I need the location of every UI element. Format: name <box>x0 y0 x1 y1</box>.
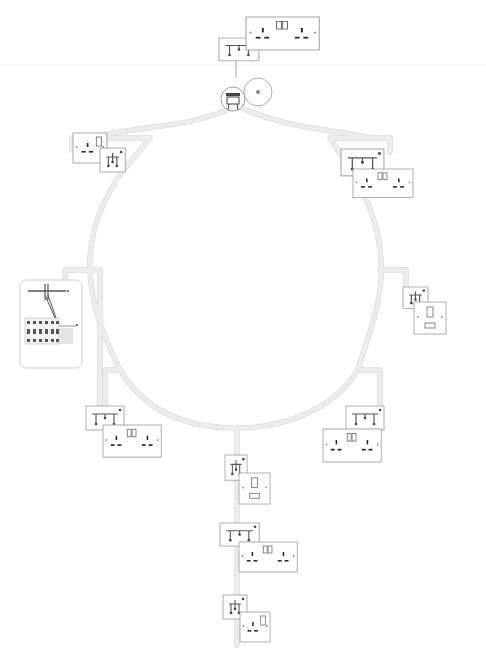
outlet-lower-left-double <box>86 406 161 457</box>
outlet-lower-right-double <box>323 406 384 462</box>
outlet-upper-right-double <box>341 149 413 198</box>
outlet-spur-3-single <box>223 595 270 642</box>
outlet-right-fused <box>403 287 446 334</box>
outlet-spur-2-double <box>220 523 297 572</box>
consumer-unit <box>20 280 82 368</box>
ceiling-rose <box>244 78 272 106</box>
outlet-top-double <box>219 17 319 61</box>
ring-main-diagram <box>0 0 486 655</box>
outlet-spur-1-fused <box>225 455 270 504</box>
fused-spur-junction <box>221 87 245 111</box>
